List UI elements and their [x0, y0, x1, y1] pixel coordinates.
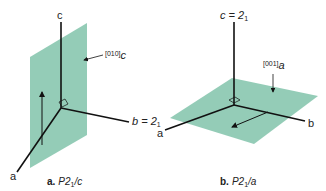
panel-b: c = 21 a b [001]a b.P21/a — [157, 9, 318, 188]
panel-a: c a b = 21 [010]c a.P21/c — [10, 9, 161, 188]
b-axis-label: b — [308, 117, 314, 129]
a-axis-label: a — [10, 170, 17, 182]
horizontal-glide-plane — [170, 78, 318, 144]
a-axis-label: a — [157, 127, 164, 139]
vertical-glide-plane — [30, 23, 87, 168]
caption-b: b.P21/a — [220, 176, 257, 188]
symmetry-diagram: c a b = 21 [010]c a.P21/c c = 21 a b [00… — [0, 0, 326, 191]
glide-plane-label: [001]a — [263, 59, 285, 71]
glide-plane-label: [010]c — [105, 49, 127, 61]
c-axis-label: c = 21 — [220, 9, 248, 22]
c-axis-label: c — [57, 9, 63, 21]
caption-a: a.P21/c — [47, 176, 82, 188]
